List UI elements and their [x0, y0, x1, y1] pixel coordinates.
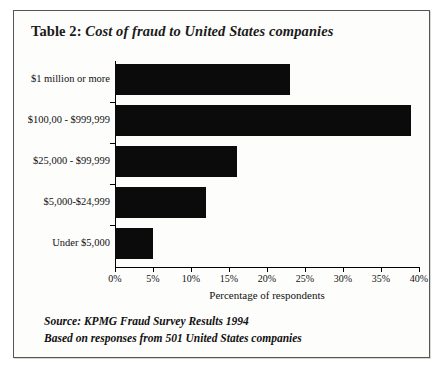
x-tick-25%: [305, 267, 306, 272]
bar-row: [115, 61, 419, 102]
x-tick-40%: [419, 267, 420, 272]
x-tick-label-10%: 10%: [182, 273, 200, 284]
category-tick: [110, 143, 116, 144]
x-tick-label-0%: 0%: [108, 273, 121, 284]
bar-row: [115, 184, 419, 225]
bar-row: [115, 102, 419, 143]
x-tick-30%: [343, 267, 344, 272]
bar-row: [115, 225, 419, 266]
figure-title-label: Table 2:: [31, 23, 82, 39]
category-label-2: $25,000 - $99,999: [14, 155, 110, 166]
x-tick-label-35%: 35%: [372, 273, 390, 284]
figure-title-text: Cost of fraud to United States companies: [85, 23, 333, 39]
category-label-0: $1 million or more: [14, 73, 110, 84]
category-label-3: $5,000-$24,999: [14, 196, 110, 207]
source-line: Source: KPMG Fraud Survey Results 1994: [44, 313, 302, 330]
x-tick-label-15%: 15%: [220, 273, 238, 284]
bar-4: [115, 228, 153, 259]
figure-frame: Table 2: Cost of fraud to United States …: [13, 10, 430, 358]
category-tick: [110, 225, 116, 226]
x-tick-10%: [191, 267, 192, 272]
x-tick-label-30%: 30%: [334, 273, 352, 284]
bar-chart: $1 million or more $100,00 - $999,999 $2…: [14, 51, 431, 309]
x-tick-5%: [153, 267, 154, 272]
category-tick: [110, 184, 116, 185]
x-tick-15%: [229, 267, 230, 272]
x-tick-35%: [381, 267, 382, 272]
x-tick-label-20%: 20%: [258, 273, 276, 284]
source-notes: Source: KPMG Fraud Survey Results 1994 B…: [44, 313, 302, 347]
x-tick-0%: [115, 267, 116, 272]
bar-row: [115, 143, 419, 184]
x-tick-label-25%: 25%: [296, 273, 314, 284]
category-label-1: $100,00 - $999,999: [14, 114, 110, 125]
bar-0: [115, 64, 290, 95]
x-tick-label-5%: 5%: [146, 273, 159, 284]
x-tick-label-40%: 40%: [410, 273, 428, 284]
bar-2: [115, 146, 237, 177]
category-tick: [110, 102, 116, 103]
basis-line: Based on responses from 501 United State…: [44, 330, 302, 347]
bar-3: [115, 187, 206, 218]
figure-title: Table 2: Cost of fraud to United States …: [31, 23, 333, 40]
x-axis-title: Percentage of respondents: [115, 289, 419, 301]
bar-1: [115, 105, 411, 136]
category-label-4: Under $5,000: [14, 237, 110, 248]
plot-area: [115, 61, 419, 266]
x-tick-20%: [267, 267, 268, 272]
